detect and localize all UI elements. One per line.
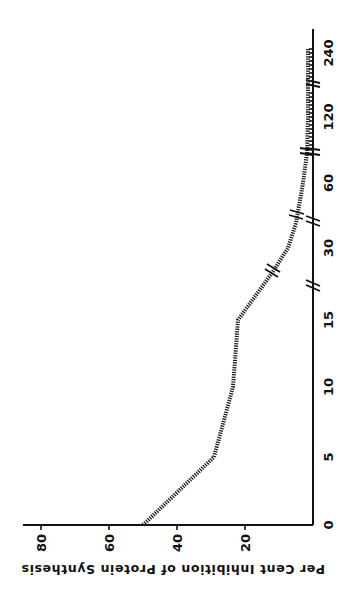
x-tick-label: 60 xyxy=(321,174,336,192)
x-tick-label: 10 xyxy=(321,378,336,396)
x-tick-label: 120 xyxy=(321,103,336,130)
y-ticks: 20 40 60 80 xyxy=(34,525,253,552)
x-ticks: 0 5 10 15 30 60 120 240 xyxy=(321,39,336,529)
x-tick-label: 30 xyxy=(321,239,336,257)
x-tick-label: 5 xyxy=(321,452,336,461)
x-tick-label: 0 xyxy=(321,520,336,529)
plot-area: 20 40 60 80 Per Cent Inhibition of Prote… xyxy=(21,29,336,577)
y-tick-label: 60 xyxy=(102,534,117,552)
y-tick-label: 20 xyxy=(238,534,253,552)
chart: 20 40 60 80 Per Cent Inhibition of Prote… xyxy=(0,0,349,602)
inhibition-series-line xyxy=(143,49,308,525)
y-axis-title: Per Cent Inhibition of Protein Synthesis xyxy=(21,562,325,577)
x-tick-label: 240 xyxy=(321,39,336,66)
y-tick-label: 80 xyxy=(34,534,49,552)
x-tick-label: 15 xyxy=(321,311,336,329)
y-tick-label: 40 xyxy=(170,534,185,552)
